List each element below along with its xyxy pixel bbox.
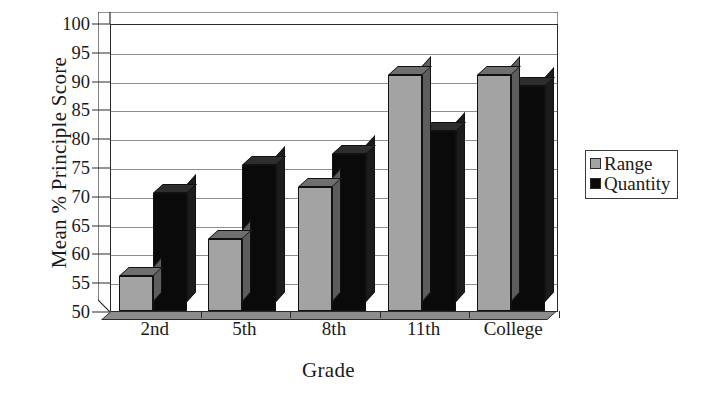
bar-range-5th <box>208 239 242 311</box>
bar-side <box>276 146 285 302</box>
y-axis-tick-label: 90 <box>50 72 90 91</box>
plot-depth-top-edge <box>98 12 558 24</box>
y-axis-tick-mark <box>92 52 110 53</box>
y-axis-tick-mark <box>92 312 110 313</box>
y-axis-tick-marks <box>92 0 112 402</box>
x-axis-tick-label: College <box>484 318 543 340</box>
plot-area <box>110 24 558 312</box>
x-axis-title: Grade <box>96 358 561 383</box>
legend-item-quantity: Quantity <box>590 174 671 194</box>
x-axis-tick-labels: 2nd5th8th11thCollege <box>110 318 558 348</box>
x-axis-tick-label: 8th <box>322 318 346 340</box>
y-axis-tick-mark <box>92 254 110 255</box>
bar-face <box>388 75 422 311</box>
plot-depth-left-wall <box>98 12 110 312</box>
y-axis-tick-mark <box>92 168 110 169</box>
bar-side <box>422 56 431 302</box>
bar-face <box>298 187 332 311</box>
bar-side <box>332 168 341 302</box>
x-axis-tick-mark <box>559 311 560 318</box>
bar-face <box>119 276 153 311</box>
x-axis-tick-mark <box>290 311 291 318</box>
y-axis-tick-label: 55 <box>50 274 90 293</box>
y-axis-tick-mark <box>92 81 110 82</box>
y-axis-tick-mark <box>92 110 110 111</box>
y-axis-tick-label: 60 <box>50 245 90 264</box>
chart-legend: RangeQuantity <box>585 150 678 199</box>
x-axis-tick-label: 2nd <box>141 318 170 340</box>
bar-face <box>477 75 511 311</box>
y-axis-tick-label: 50 <box>50 303 90 322</box>
y-axis-tick-label: 65 <box>50 216 90 235</box>
x-axis-tick-mark <box>469 311 470 318</box>
legend-swatch-range <box>590 158 601 169</box>
legend-item-range: Range <box>590 154 671 174</box>
bar-side <box>366 135 375 302</box>
y-axis-tick-mark <box>92 196 110 197</box>
x-axis-tick-mark <box>201 311 202 318</box>
legend-swatch-quantity <box>590 178 601 189</box>
y-axis-tick-labels: 50556065707580859095100 <box>48 0 90 402</box>
bar-side <box>511 56 520 302</box>
bar-range-11th <box>388 75 422 311</box>
bar-side <box>545 67 554 302</box>
y-axis-tick-label: 80 <box>50 130 90 149</box>
bar-side <box>456 112 465 302</box>
y-axis-tick-mark <box>92 24 110 25</box>
y-axis-tick-mark <box>92 139 110 140</box>
bar-chart: Mean % Principle Score 50556065707580859… <box>0 0 713 402</box>
bar-face <box>208 239 242 311</box>
y-axis-tick-label: 70 <box>50 188 90 207</box>
x-axis-tick-mark <box>380 311 381 318</box>
legend-label: Quantity <box>604 174 671 194</box>
legend-label: Range <box>604 154 653 174</box>
y-axis-tick-label: 75 <box>50 159 90 178</box>
y-axis-tick-mark <box>92 225 110 226</box>
y-axis-tick-label: 95 <box>50 44 90 63</box>
y-axis-tick-label: 85 <box>50 101 90 120</box>
x-axis-tick-label: 11th <box>407 318 440 340</box>
gridline <box>111 54 557 55</box>
x-axis-tick-label: 5th <box>232 318 256 340</box>
bar-range-2nd <box>119 276 153 311</box>
bar-side <box>187 174 196 302</box>
y-axis-tick-mark <box>92 283 110 284</box>
bar-range-8th <box>298 187 332 311</box>
y-axis-tick-label: 100 <box>50 15 90 34</box>
bar-range-college <box>477 75 511 311</box>
